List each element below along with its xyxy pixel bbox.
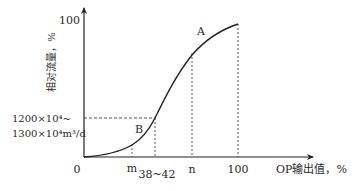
x-tick-100: 100 xyxy=(228,163,249,176)
y-annotation-line2: 1300×10⁴m³/d xyxy=(12,128,86,139)
x-axis-title: OP输出值，% xyxy=(276,162,347,176)
chart: 100 相对流量，% 1200×10⁴~ 1300×10⁴m³/d 0 m 38… xyxy=(0,0,354,191)
y-annotation-line1: 1200×10⁴~ xyxy=(12,113,71,124)
x-tick-38-42: 38~42 xyxy=(138,168,175,181)
point-b-label: B xyxy=(135,123,143,136)
flow-curve xyxy=(84,24,238,157)
x-tick-n: n xyxy=(188,163,195,176)
point-a-label: A xyxy=(196,25,206,38)
x-origin-label: 0 xyxy=(74,163,81,176)
y-max-label: 100 xyxy=(59,14,80,27)
x-tick-m: m xyxy=(127,162,138,175)
y-axis-title: 相对流量，% xyxy=(45,32,57,92)
